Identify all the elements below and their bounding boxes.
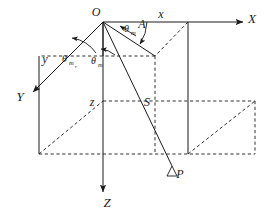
x-axis-label: X (247, 11, 257, 26)
angle-arc-theta-mr (72, 38, 96, 53)
point-s-label: S (144, 95, 150, 109)
axis-group (33, 22, 243, 192)
diagram-canvas: X Y Z x y z O A S P θ m θ m r θ m (0, 0, 270, 220)
origin-label: O (92, 5, 101, 19)
angle-label-theta-m-upper: θ m (124, 23, 136, 36)
point-p-label: P (175, 167, 184, 181)
angle-label-theta-m-lower: θ m (91, 55, 103, 68)
vector-group (103, 22, 172, 166)
theta-m-upper-base: θ (124, 23, 129, 34)
figure-3d-coordinate-diagram: X Y Z x y z O A S P θ m θ m r θ m (0, 0, 270, 220)
vector-o-to-p (103, 22, 172, 166)
y-axis-label: Y (16, 89, 25, 104)
theta-mr-subscript: m (69, 59, 74, 66)
z-component-label: z (89, 95, 95, 109)
theta-mr-base: θ (62, 53, 67, 64)
theta-m-upper-subscript: m (131, 29, 136, 36)
box-top-diagonal-edge (155, 22, 188, 56)
bounding-box-group (39, 22, 255, 154)
theta-m-lower-subscript: m (98, 61, 103, 68)
angle-arc-group (72, 22, 147, 55)
z-axis-label: Z (103, 195, 111, 210)
x-component-label: x (157, 7, 164, 21)
theta-m-lower-base: θ (91, 55, 96, 66)
point-a-label: A (137, 17, 146, 31)
box-bottom-right-diagonal (188, 101, 255, 154)
y-component-label: y (41, 52, 48, 66)
theta-mr-subscript2: r (75, 64, 77, 69)
